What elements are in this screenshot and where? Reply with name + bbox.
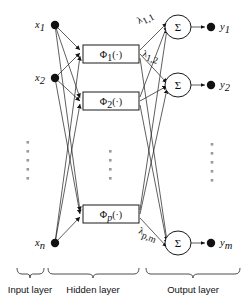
edge-xn-phi2 <box>55 104 80 243</box>
layer-label-input: Input layer <box>8 284 52 295</box>
brace-input-layer <box>17 268 44 278</box>
edge-x1-phip <box>55 25 80 211</box>
edges-input-to-hidden <box>55 25 80 243</box>
input-node-x1 <box>51 21 59 29</box>
output-label-y2: y2 <box>219 79 231 93</box>
hidden-units: Φ1(·) Φ2(·) Φp(·) <box>83 45 139 223</box>
output-label-ym: ym <box>219 237 233 251</box>
input-label-x2: x2 <box>34 72 46 86</box>
brace-output-layer <box>146 268 240 278</box>
input-nodes: x1 x2 xn <box>34 19 59 251</box>
edge-phip-sum2 <box>140 89 167 214</box>
edge-phi2-summ <box>140 105 167 244</box>
sigma-symbol-y1: Σ <box>175 21 181 33</box>
weight-label-lambda-1-1: λ1,1 <box>135 9 156 28</box>
input-label-x1: x1 <box>34 19 45 33</box>
edge-x1-phi2 <box>55 25 80 98</box>
layer-braces: Input layer Hidden layer Output layer <box>8 268 240 295</box>
ellipsis-output <box>211 143 214 182</box>
output-nodes: Σ y1 Σ y2 Σ ym <box>165 15 233 255</box>
sigma-symbol-y2: Σ <box>175 79 181 91</box>
edge-x2-phi1 <box>55 53 80 78</box>
layer-label-hidden: Hidden layer <box>66 284 119 295</box>
edge-x1-phi1 <box>55 25 80 50</box>
output-dot-y2 <box>207 81 215 89</box>
edge-phi2-sum2 <box>140 86 167 101</box>
input-node-xn <box>51 239 59 247</box>
output-label-y1: y1 <box>219 21 230 35</box>
ellipsis-input <box>27 141 30 180</box>
brace-hidden-layer <box>48 268 139 278</box>
neural-network-diagram: x1 x2 xn Φ1(·) Φ2(·) Φp(·) Σ y1 Σ y2 <box>0 0 252 308</box>
sigma-symbol-ym: Σ <box>175 237 181 249</box>
ellipsis-hidden <box>109 150 112 180</box>
layer-label-output: Output layer <box>167 284 219 295</box>
edge-x2-phip <box>55 78 80 214</box>
input-node-x2 <box>51 74 59 82</box>
input-label-xn: xn <box>34 237 45 251</box>
output-dot-y1 <box>207 23 215 31</box>
edge-xn-phi1 <box>55 56 80 243</box>
diagram-canvas: x1 x2 xn Φ1(·) Φ2(·) Φp(·) Σ y1 Σ y2 <box>0 0 252 308</box>
weight-label-lambda-p-m: λp,m <box>136 226 159 245</box>
output-dot-ym <box>207 239 215 247</box>
